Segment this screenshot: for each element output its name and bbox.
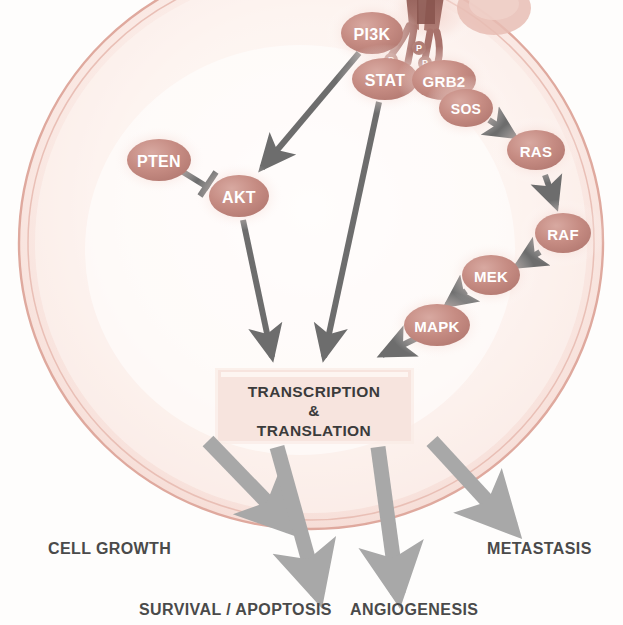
outcome-label-cell-growth: CELL GROWTH	[48, 540, 171, 557]
protein-node-sos[interactable]: SOS	[423, 75, 509, 141]
protein-node-pten[interactable]: PTEN	[111, 125, 207, 195]
pathway-diagram: P P P P	[0, 0, 623, 625]
transcription-line2: &	[308, 402, 320, 419]
node-label: SOS	[451, 101, 481, 117]
node-label: PI3K	[354, 26, 391, 43]
node-label: MAPK	[414, 318, 459, 335]
transcription-line3: TRANSLATION	[257, 422, 371, 439]
diagram-canvas: P P P P	[0, 0, 623, 625]
outcome-label-metastasis: METASTASIS	[487, 540, 592, 557]
outcome-label-angiogenesis: ANGIOGENESIS	[350, 601, 478, 618]
outcome-label-survival-apoptosis: SURVIVAL / APOPTOSIS	[139, 601, 332, 618]
node-label: PTEN	[137, 153, 181, 170]
protein-node-raf[interactable]: RAF	[519, 199, 607, 267]
node-label: MEK	[474, 268, 508, 285]
node-label: RAS	[520, 143, 553, 160]
node-label: AKT	[222, 189, 256, 206]
protein-node-ras[interactable]: RAS	[491, 116, 581, 184]
protein-node-akt[interactable]: AKT	[193, 161, 285, 231]
node-label: RAF	[547, 226, 579, 243]
transcription-translation-box: TRANSCRIPTION & TRANSLATION	[215, 368, 414, 444]
transcription-line1: TRANSCRIPTION	[248, 383, 381, 400]
protein-node-mapk[interactable]: MAPK	[388, 290, 486, 360]
